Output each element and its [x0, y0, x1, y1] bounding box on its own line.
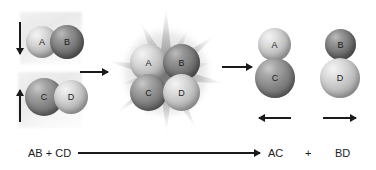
- atom-d-reactant: D: [54, 80, 88, 114]
- atom-a-product: A: [258, 28, 291, 61]
- bd-motion-arrow-right: [323, 114, 356, 122]
- atom-d-transition: D: [163, 74, 200, 111]
- atom-label: C: [41, 92, 48, 102]
- atom-label: B: [64, 37, 70, 47]
- arrow-head: [254, 149, 261, 157]
- atom-label: A: [271, 40, 277, 50]
- arrow-head: [258, 114, 265, 122]
- atom-label: C: [272, 73, 279, 83]
- atom-b-product: B: [325, 29, 356, 60]
- ab-motion-arrow-down: [15, 22, 25, 54]
- equation-reaction-arrow: [78, 152, 260, 154]
- arrow-head: [246, 63, 253, 71]
- atom-label: C: [145, 88, 152, 98]
- reaction-diagram: A B C D: [0, 0, 376, 170]
- transition-state-collision: A B C D: [108, 4, 224, 142]
- atom-c-transition: C: [130, 74, 167, 111]
- atom-label: D: [68, 92, 75, 102]
- atom-label: A: [145, 58, 151, 68]
- atom-label: B: [178, 58, 184, 68]
- atom-label: D: [337, 73, 344, 83]
- ac-motion-arrow-left: [259, 114, 291, 122]
- equation-plus-sign: +: [305, 140, 311, 166]
- process-arrow-reactants-to-transition: [80, 68, 108, 76]
- atom-b-reactant: B: [50, 25, 84, 59]
- atom-label: B: [337, 40, 343, 50]
- cd-motion-arrow-up: [15, 90, 25, 122]
- arrow-shaft: [78, 152, 260, 154]
- reaction-equation: AB + CD AC + BD: [0, 140, 376, 166]
- equation-product-bd: BD: [335, 140, 350, 166]
- equation-product-ac: AC: [268, 140, 283, 166]
- atom-d-product: D: [320, 58, 360, 98]
- process-arrow-transition-to-products: [222, 63, 252, 71]
- arrow-head: [16, 89, 24, 96]
- arrow-head: [350, 114, 357, 122]
- atom-c-product: C: [255, 58, 295, 98]
- atom-label: A: [39, 37, 45, 47]
- atom-label: D: [178, 88, 185, 98]
- equation-reactants: AB + CD: [28, 140, 71, 166]
- arrow-head: [16, 48, 24, 55]
